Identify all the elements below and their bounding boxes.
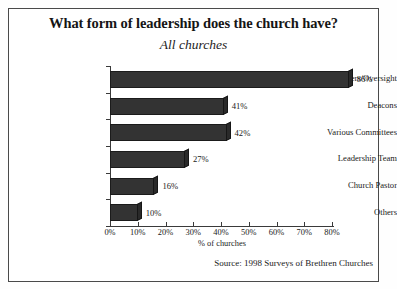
y-axis-tick (106, 93, 110, 94)
bar-value-label: 16% (162, 181, 178, 191)
bar-value-label: 86% (357, 74, 373, 84)
bar-row: 16% (110, 178, 372, 195)
bar-value-label: 10% (146, 208, 162, 218)
bar-value-label: 41% (232, 101, 248, 111)
bar-row: 41% (110, 98, 372, 115)
bar-end-bevel-icon (223, 95, 228, 114)
y-axis-tick (106, 226, 110, 227)
y-axis-tick (106, 199, 110, 200)
bar-row: 42% (110, 124, 372, 141)
x-axis-tick (249, 222, 250, 226)
y-axis-tick (106, 173, 110, 174)
bar-end-bevel-icon (153, 175, 158, 194)
bar-end-bevel-icon (348, 68, 353, 87)
x-axis-tick (166, 222, 167, 226)
x-axis-line (110, 226, 334, 227)
y-axis-tick (106, 119, 110, 120)
x-axis-tick (110, 222, 111, 226)
source-note: Source: 1998 Surveys of Brethren Churche… (214, 258, 373, 268)
x-axis-title: % of churches (110, 239, 334, 248)
bar (110, 204, 138, 221)
bar (110, 98, 224, 115)
bar-end-bevel-icon (184, 148, 189, 167)
x-axis-tick (332, 222, 333, 226)
bar-value-label: 27% (193, 154, 209, 164)
bar (110, 71, 349, 88)
chart-figure: What form of leadership does the church … (0, 0, 397, 289)
chart-title: What form of leadership does the church … (8, 15, 379, 32)
bar-row: 86% (110, 71, 372, 88)
x-axis-tick (221, 222, 222, 226)
bar-end-bevel-icon (137, 202, 142, 221)
y-axis-tick (106, 66, 110, 67)
x-axis-tick (193, 222, 194, 226)
bar (110, 124, 227, 141)
chart-subtitle: All churches (8, 37, 379, 53)
bar (110, 151, 185, 168)
x-axis-tick (304, 222, 305, 226)
x-axis-tick-label: 80% (312, 228, 352, 237)
y-axis-line (110, 66, 111, 226)
bar-row: 27% (110, 151, 372, 168)
bar (110, 178, 154, 195)
x-axis-tick (138, 222, 139, 226)
bar-end-bevel-icon (226, 122, 231, 141)
bar-row: 10% (110, 204, 372, 221)
y-axis-tick (106, 146, 110, 147)
x-axis-tick (277, 222, 278, 226)
bar-value-label: 42% (235, 128, 251, 138)
